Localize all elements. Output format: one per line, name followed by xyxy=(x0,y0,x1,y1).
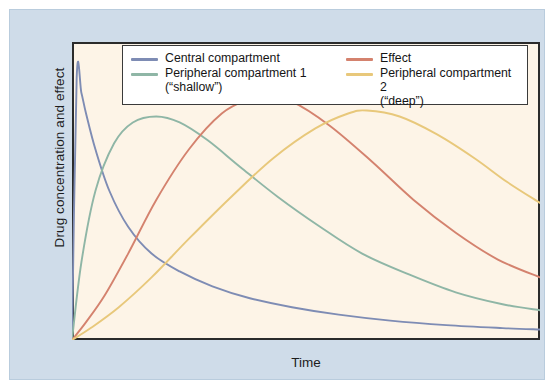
legend-entry-peripheral-compartment-1: Peripheral compartment 1 (“shallow”) xyxy=(131,66,346,94)
chart-legend: Central compartment Peripheral compartme… xyxy=(122,45,528,105)
legend-label-peripheral-compartment-2: Peripheral compartment 2 (“deep”) xyxy=(380,66,519,108)
legend-label-peripheral-compartment-1: Peripheral compartment 1 (“shallow”) xyxy=(165,66,306,94)
x-axis-label: Time xyxy=(72,355,540,370)
legend-swatch-effect xyxy=(346,58,373,61)
legend-entry-peripheral-compartment-2: Peripheral compartment 2 (“deep”) xyxy=(346,66,519,108)
y-axis-label: Drug concentration and effect xyxy=(52,43,67,273)
figure-panel: Drug concentration and effect Time Centr… xyxy=(9,9,545,380)
figure-container: Drug concentration and effect Time Centr… xyxy=(0,0,555,390)
legend-swatch-peripheral-compartment-2 xyxy=(346,73,373,76)
legend-label-effect: Effect xyxy=(380,51,411,65)
legend-entry-central-compartment: Central compartment xyxy=(131,51,346,65)
legend-label-central-compartment: Central compartment xyxy=(165,51,280,65)
legend-swatch-central-compartment xyxy=(131,58,158,61)
axis-ticks xyxy=(72,117,474,341)
legend-entry-effect: Effect xyxy=(346,51,519,65)
legend-swatch-peripheral-compartment-1 xyxy=(131,73,158,76)
legend-column-right: Effect Peripheral compartment 2 (“deep”) xyxy=(346,51,519,100)
legend-column-left: Central compartment Peripheral compartme… xyxy=(131,51,346,100)
